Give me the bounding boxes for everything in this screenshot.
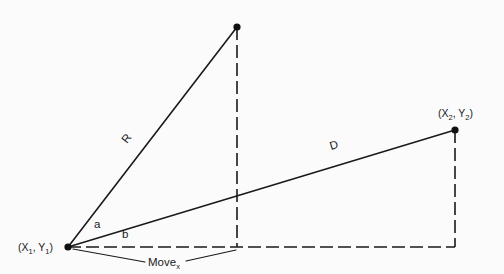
angle-a-label: a <box>94 218 101 230</box>
diagram-canvas: (X1, Y1) (X2, Y2) R D a b Movex <box>0 0 504 274</box>
move-leader-right <box>186 250 236 261</box>
origin-coordinate-label: (X1, Y1) <box>18 241 53 256</box>
angle-b-label: b <box>122 228 128 240</box>
move-x-label: Movex <box>148 256 180 271</box>
geometry-diagram: (X1, Y1) (X2, Y2) R D a b Movex <box>0 0 504 274</box>
target-vertex-dot <box>451 126 458 133</box>
origin-vertex-dot <box>64 243 71 250</box>
target-coordinate-label: (X2, Y2) <box>438 107 473 122</box>
apex-vertex-dot <box>233 23 240 30</box>
segment-d-label: D <box>328 138 339 152</box>
move-leader-left <box>73 249 145 262</box>
segment-r-line <box>68 27 237 247</box>
segment-r-label: R <box>119 131 134 145</box>
